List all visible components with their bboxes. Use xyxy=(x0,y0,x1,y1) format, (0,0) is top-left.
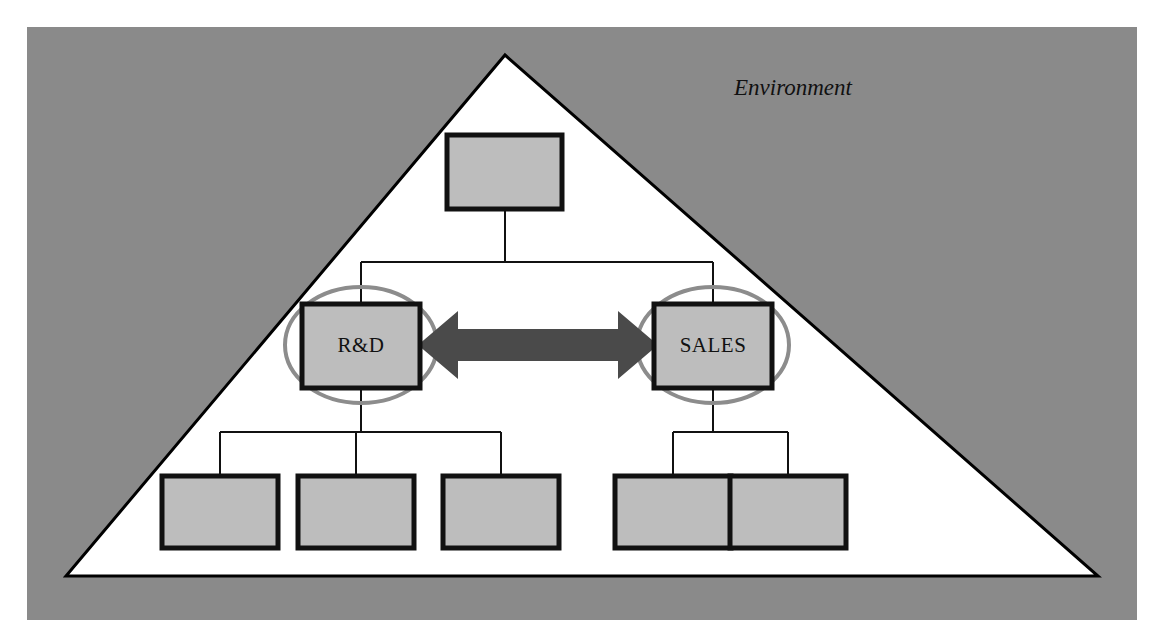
org-node-rd-child-2-box[interactable] xyxy=(298,476,414,548)
org-node-top[interactable] xyxy=(447,135,562,209)
org-node-sales-child-2-box[interactable] xyxy=(730,476,846,548)
org-node-rd-child-1-box[interactable] xyxy=(162,476,278,548)
org-node-sales-label: SALES xyxy=(680,333,747,357)
org-node-sales-child-1[interactable] xyxy=(615,476,731,548)
org-node-sales[interactable]: SALES xyxy=(654,304,772,388)
org-node-rd-label: R&D xyxy=(337,333,384,357)
diagram-root: Environment xyxy=(0,0,1165,643)
org-node-rd-child-3[interactable] xyxy=(443,476,559,548)
org-node-rd[interactable]: R&D xyxy=(302,304,420,388)
diagram-canvas: Environment xyxy=(0,0,1165,643)
org-node-sales-child-2[interactable] xyxy=(730,476,846,548)
org-node-rd-child-2[interactable] xyxy=(298,476,414,548)
org-node-top-box[interactable] xyxy=(447,135,562,209)
org-node-rd-child-3-box[interactable] xyxy=(443,476,559,548)
org-node-sales-child-1-box[interactable] xyxy=(615,476,731,548)
environment-label: Environment xyxy=(733,75,853,100)
org-node-rd-child-1[interactable] xyxy=(162,476,278,548)
